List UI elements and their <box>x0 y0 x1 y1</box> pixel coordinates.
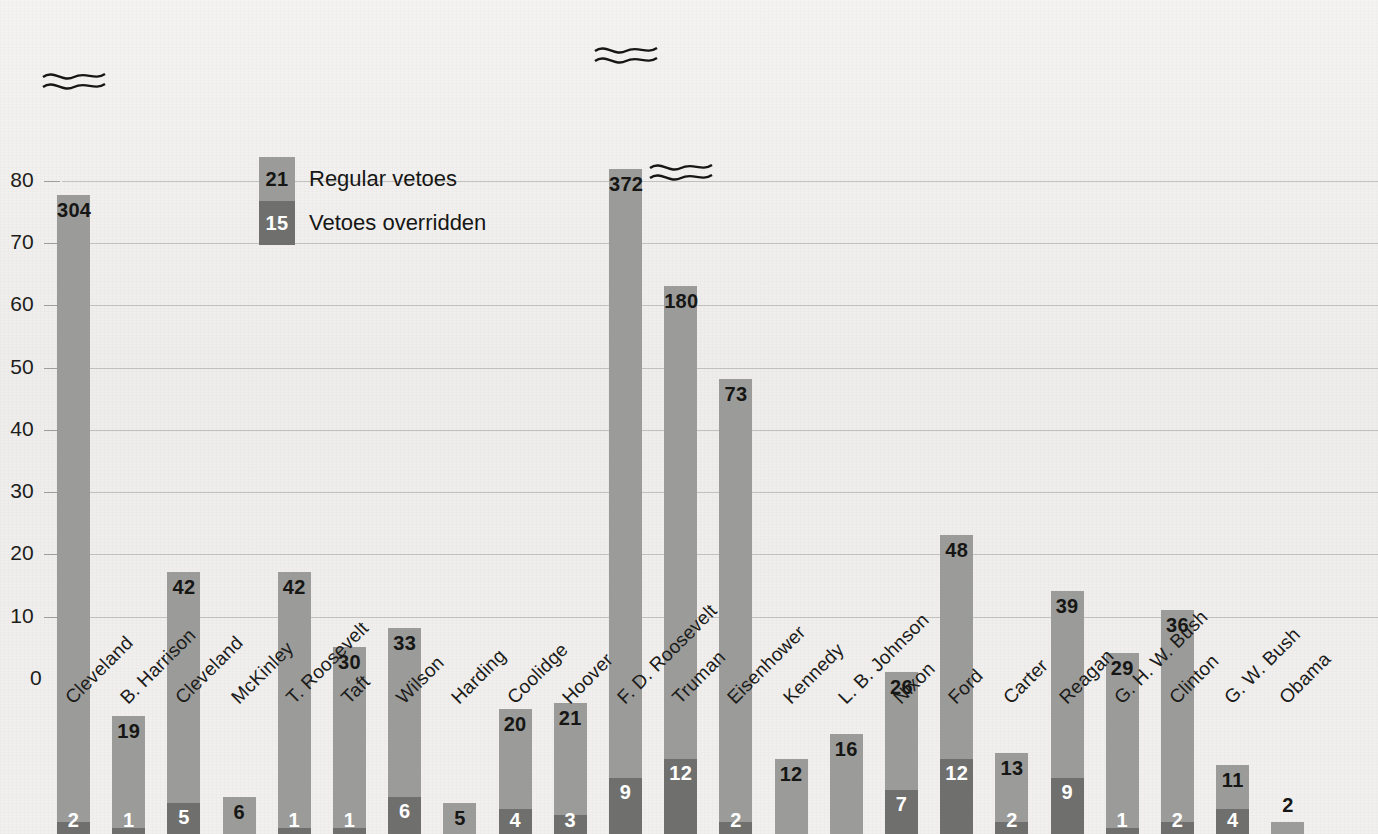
bar-value-regular: 73 <box>719 383 752 406</box>
bar-group[interactable]: 18012 <box>664 286 697 834</box>
bar-value-overridden: 12 <box>664 762 697 785</box>
bar-value-regular: 39 <box>1051 595 1084 618</box>
y-tick-label-50: 50 <box>0 355 34 379</box>
bar-value-overridden: 2 <box>57 809 90 832</box>
y-tick-mark-80 <box>44 181 60 182</box>
bar-segment-regular[interactable] <box>1271 822 1304 834</box>
bar-value-overridden: 7 <box>885 793 918 816</box>
x-axis-label: Harding <box>447 645 511 709</box>
legend-swatch-override: 15 <box>259 201 295 245</box>
bar-segment-regular[interactable] <box>664 286 697 834</box>
bar-value-regular: 42 <box>167 576 200 599</box>
gridline-50 <box>62 368 1378 369</box>
legend-item[interactable]: 15Vetoes overridden <box>259 201 486 245</box>
bar-value-regular: 21 <box>554 707 587 730</box>
bar-value-overridden: 1 <box>333 809 366 832</box>
bar-group[interactable]: 336 <box>388 628 421 834</box>
bar-group[interactable]: 213 <box>554 703 587 834</box>
x-axis-label: Coolidge <box>503 639 573 709</box>
bar-group[interactable]: 2 <box>1271 822 1304 834</box>
bar-value-regular: 6 <box>223 801 256 824</box>
bar-group[interactable]: 399 <box>1051 591 1084 834</box>
bar-value-overridden: 1 <box>278 809 311 832</box>
bar-value-overridden: 9 <box>1051 781 1084 804</box>
bar-value-regular: 42 <box>278 576 311 599</box>
bar-group[interactable]: 204 <box>499 709 532 834</box>
bar-value-regular: 19 <box>112 720 145 743</box>
bar-group[interactable]: 12 <box>775 759 808 834</box>
bar-value-regular: 33 <box>388 632 421 655</box>
bar-group[interactable]: 732 <box>719 379 752 834</box>
bar-segment-regular[interactable] <box>57 195 90 834</box>
y-tick-label-0: 0 <box>0 666 42 690</box>
axis-break-mark <box>594 42 658 68</box>
bar-value-regular: 20 <box>499 713 532 736</box>
bar-value-overridden: 2 <box>719 809 752 832</box>
y-tick-label-40: 40 <box>0 417 34 441</box>
legend: 21Regular vetoes15Vetoes overridden <box>259 157 486 245</box>
bar-value-overridden: 5 <box>167 806 200 829</box>
legend-swatch-regular: 21 <box>259 157 295 201</box>
bar-group[interactable]: 3042 <box>57 195 90 834</box>
y-tick-label-20: 20 <box>0 541 34 565</box>
bar-value-regular: 16 <box>830 738 863 761</box>
bar-group[interactable]: 16 <box>830 734 863 834</box>
bar-value-overridden: 1 <box>112 809 145 832</box>
bar-group[interactable]: 114 <box>1216 765 1249 834</box>
bar-value-regular: 5 <box>443 807 476 830</box>
bar-value-regular: 180 <box>664 290 697 313</box>
bar-value-overridden: 2 <box>995 809 1028 832</box>
bar-value-regular: 48 <box>940 539 973 562</box>
bar-value-overridden: 9 <box>609 781 642 804</box>
legend-item[interactable]: 21Regular vetoes <box>259 157 486 201</box>
y-tick-label-70: 70 <box>0 230 34 254</box>
bar-group[interactable]: 3729 <box>609 169 642 834</box>
bar-value-overridden: 3 <box>554 809 587 832</box>
gridline-60 <box>62 305 1378 306</box>
bar-group[interactable]: 132 <box>995 753 1028 834</box>
legend-label: Vetoes overridden <box>309 210 486 236</box>
bar-value-overridden: 4 <box>499 809 532 832</box>
bar-value-regular: 11 <box>1216 769 1249 792</box>
bar-value-overridden: 6 <box>388 800 421 823</box>
bar-segment-regular[interactable] <box>719 379 752 834</box>
x-axis-label: Carter <box>999 655 1053 709</box>
bar-value-regular: 12 <box>775 763 808 786</box>
y-tick-label-60: 60 <box>0 292 34 316</box>
y-tick-label-30: 30 <box>0 479 34 503</box>
bar-value-overridden: 4 <box>1216 809 1249 832</box>
bar-value-regular: 304 <box>57 199 90 222</box>
bar-value-regular: 13 <box>995 757 1028 780</box>
axis-break-mark <box>42 68 106 94</box>
bar-value-overridden: 2 <box>1161 809 1194 832</box>
bar-value-regular: 2 <box>1271 794 1304 817</box>
bar-group[interactable]: 5 <box>443 803 476 834</box>
bar-value-regular: 372 <box>609 173 642 196</box>
legend-label: Regular vetoes <box>309 166 457 192</box>
y-tick-label-80: 80 <box>0 168 34 192</box>
bar-value-overridden: 1 <box>1106 809 1139 832</box>
bar-group[interactable]: 6 <box>223 797 256 834</box>
y-tick-label-10: 10 <box>0 604 34 628</box>
bar-segment-regular[interactable] <box>609 169 642 834</box>
bar-group[interactable]: 191 <box>112 716 145 834</box>
bar-value-overridden: 12 <box>940 762 973 785</box>
veto-bar-chart: 01020304050607080 3042191425642130133652… <box>0 0 1378 834</box>
